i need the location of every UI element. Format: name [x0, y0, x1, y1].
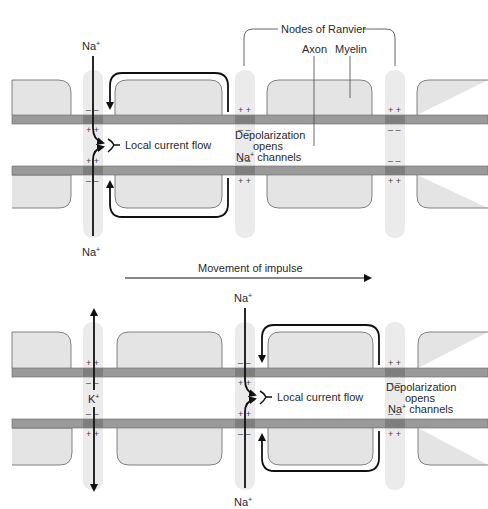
local-current-label: Local current flow — [277, 391, 363, 403]
charge-label: + + — [388, 429, 401, 439]
node-3-top — [385, 70, 405, 238]
myelin-segment — [417, 80, 488, 115]
myelin-segment — [268, 332, 373, 368]
movement-label: Movement of impulse — [198, 262, 303, 274]
myelin-segment — [12, 332, 71, 368]
local-current-bracket — [260, 391, 272, 404]
na-ion-label: Na+ — [234, 292, 252, 304]
myelin-segment — [115, 175, 222, 208]
nodes-of-ranvier-label: Nodes of Ranvier — [281, 23, 366, 35]
bottom-panel: + + – – – – + + K+ – – + + + + – – + + –… — [12, 292, 488, 508]
charge-label: + + — [86, 429, 99, 439]
charge-label: + + — [238, 176, 251, 186]
charge-label: – – — [388, 125, 401, 135]
myelin-segment — [418, 332, 488, 368]
myelin-segment — [268, 428, 373, 465]
myelin-segment — [12, 428, 72, 465]
saltatory-conduction-diagram: – – + + + + – – + + – – – – + + + + – – … — [0, 0, 488, 509]
node-1-bottom — [83, 322, 103, 490]
charge-label: – – — [86, 378, 99, 388]
myelin-segment — [267, 80, 372, 115]
myelin-label: Myelin — [335, 43, 367, 55]
charge-label: – – — [86, 409, 99, 419]
myelin-segment — [12, 175, 71, 208]
impulse-direction: Movement of impulse — [125, 262, 370, 278]
na-ion-label: Na+ — [82, 246, 100, 258]
myelin-segment — [12, 80, 71, 115]
myelin-segment — [418, 428, 488, 465]
local-current-bracket — [108, 139, 120, 152]
charge-label: + + — [86, 358, 99, 368]
top-panel: – – + + + + – – + + – – – – + + + + – – … — [12, 23, 488, 258]
myelin-segment — [117, 332, 222, 368]
charge-label: + + — [388, 176, 401, 186]
na-ion-label: Na+ — [82, 40, 100, 52]
axon-label: Axon — [302, 43, 327, 55]
charge-label: + + — [238, 105, 251, 115]
myelin-segment — [267, 175, 372, 208]
myelin-segment — [117, 428, 222, 465]
myelin-segment — [115, 80, 222, 115]
charge-label: + + — [388, 358, 401, 368]
depolarization-label: Na+ channels — [236, 151, 302, 163]
myelin-segment — [417, 175, 488, 208]
charge-label: + + — [388, 105, 401, 115]
depolarization-label: Na+ channels — [388, 403, 454, 415]
na-ion-label: Na+ — [234, 496, 252, 508]
local-current-label: Local current flow — [125, 139, 211, 151]
charge-label: – – — [388, 156, 401, 166]
